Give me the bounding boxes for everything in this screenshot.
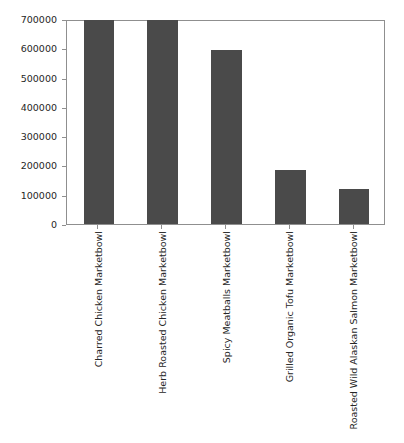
x-tick-label: Herb Roasted Chicken Marketbowl: [156, 231, 167, 394]
y-tick-label: 500000: [21, 72, 57, 85]
x-axis: Charred Chicken MarketbowlHerb Roasted C…: [66, 225, 385, 443]
x-tick-mark: [353, 225, 354, 229]
x-tick-mark: [289, 225, 290, 229]
y-tick-label: 400000: [21, 101, 57, 114]
y-tick-label: 600000: [21, 42, 57, 55]
x-tick-label: Charred Chicken Marketbowl: [92, 231, 103, 367]
bar[interactable]: [84, 20, 115, 224]
bar[interactable]: [147, 20, 178, 224]
y-axis: 0100000200000300000400000500000600000700…: [0, 0, 66, 245]
x-tick-label: Grilled Organic Tofu Marketbowl: [284, 231, 295, 382]
x-tick-mark: [225, 225, 226, 229]
x-tick-mark: [97, 225, 98, 229]
y-tick-label: 300000: [21, 130, 57, 143]
plot-area: [66, 20, 385, 225]
bar[interactable]: [211, 50, 242, 224]
bars-layer: [67, 21, 384, 224]
x-tick-label: Spicy Meatballs Marketbowl: [220, 231, 231, 363]
bar[interactable]: [275, 170, 306, 224]
bar-chart-figure: 0100000200000300000400000500000600000700…: [0, 0, 404, 443]
y-tick-label: 700000: [21, 13, 57, 26]
x-tick-label: Roasted Wild Alaskan Salmon Marketbowl: [348, 231, 359, 430]
bar[interactable]: [339, 189, 370, 224]
y-tick-label: 200000: [21, 159, 57, 172]
x-tick-mark: [161, 225, 162, 229]
y-tick-label: 100000: [21, 189, 57, 202]
y-tick-label: 0: [51, 218, 57, 231]
